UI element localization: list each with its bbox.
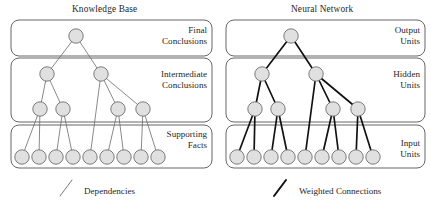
node-intermediate-conclusions xyxy=(40,67,54,81)
node-supporting-facts xyxy=(117,150,131,164)
layer-label-input-units-box: InputUnits xyxy=(300,138,420,159)
layer-label-line: Intermediate xyxy=(87,69,207,80)
node-hidden-lower xyxy=(271,102,285,116)
node-supporting-facts xyxy=(66,150,80,164)
layer-label-line: Facts xyxy=(87,140,207,151)
node-supporting-facts xyxy=(49,150,63,164)
node-output-units xyxy=(284,29,298,43)
node-hidden-lower xyxy=(248,102,262,116)
node-supporting-facts xyxy=(100,150,114,164)
node-row-intermediate-lower xyxy=(33,102,150,116)
layer-label-line: Conclusions xyxy=(87,36,207,47)
layer-label-line: Final xyxy=(87,25,207,36)
node-hidden-lower xyxy=(351,102,365,116)
node-final-conclusions xyxy=(69,29,83,43)
layer-label-output-units-box: OutputUnits xyxy=(300,25,420,46)
layer-label-line: Output xyxy=(300,25,420,36)
node-input-units xyxy=(264,150,278,164)
layer-label-line: Supporting xyxy=(87,129,207,140)
layer-label-final-conclusions-box: FinalConclusions xyxy=(87,25,207,46)
node-intermediate-lower xyxy=(136,102,150,116)
layer-label-line: Units xyxy=(300,80,420,91)
node-input-units xyxy=(230,150,244,164)
panel-knowledge-base xyxy=(11,20,212,196)
layer-label-hidden-units-box: HiddenUnits xyxy=(300,69,420,90)
layer-label-line: Hidden xyxy=(300,69,420,80)
node-intermediate-lower xyxy=(56,102,70,116)
node-row-hidden-lower xyxy=(248,102,365,116)
node-input-units xyxy=(281,150,295,164)
node-input-units xyxy=(247,150,261,164)
node-hidden-upper xyxy=(255,67,269,81)
node-intermediate-lower xyxy=(33,102,47,116)
node-supporting-facts xyxy=(32,150,46,164)
node-supporting-facts xyxy=(151,150,165,164)
layer-label-line: Conclusions xyxy=(87,80,207,91)
layer-label-line: Input xyxy=(300,138,420,149)
panel-title-neural-network: Neural Network xyxy=(291,4,353,14)
legend-sample-line-knowledge-base xyxy=(60,180,72,196)
layer-label-line: Units xyxy=(300,149,420,160)
layer-label-supporting-facts-box: SupportingFacts xyxy=(87,129,207,150)
layer-label-line: Units xyxy=(300,36,420,47)
legend-label-knowledge-base: Dependencies xyxy=(84,186,135,196)
panel-title-knowledge-base: Knowledge Base xyxy=(72,4,137,14)
node-supporting-facts xyxy=(83,150,97,164)
layer-label-intermediate-conclusions-box: IntermediateConclusions xyxy=(87,69,207,90)
legend-label-neural-network: Weighted Connections xyxy=(299,186,381,196)
legend-sample-line-neural-network xyxy=(274,180,286,196)
node-row-supporting-facts xyxy=(15,150,165,164)
node-row-output-units xyxy=(284,29,298,43)
node-supporting-facts xyxy=(15,150,29,164)
node-hidden-lower xyxy=(326,102,340,116)
node-row-final-conclusions xyxy=(69,29,83,43)
figure-root: Knowledge BaseFinalConclusionsIntermedia… xyxy=(0,0,431,209)
node-supporting-facts xyxy=(134,150,148,164)
panel-neural-network xyxy=(226,20,425,196)
node-intermediate-lower xyxy=(111,102,125,116)
